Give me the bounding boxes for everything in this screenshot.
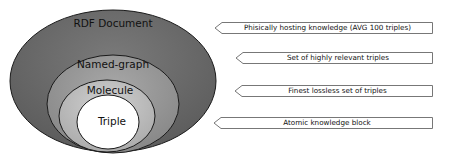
- callout-text-named-graph: Set of highly relevant triples: [243, 52, 433, 64]
- callout-molecule: Finest lossless set of triples: [234, 85, 433, 97]
- rdf-hierarchy-diagram: RDF Document Named-graph Molecule Triple…: [0, 0, 454, 156]
- layer-label-molecule: Molecule: [87, 84, 134, 96]
- callout-rdf-document: Phisically hosting knowledge (AVG 100 tr…: [214, 22, 433, 34]
- callout-named-graph: Set of highly relevant triples: [235, 52, 433, 64]
- layer-label-named-graph: Named-graph: [77, 58, 149, 70]
- callout-text-molecule: Finest lossless set of triples: [242, 85, 433, 97]
- layer-label-rdf-document: RDF Document: [73, 17, 152, 29]
- callout-triple: Atomic knowledge block: [213, 117, 433, 129]
- layer-label-triple: Triple: [98, 115, 126, 127]
- callout-text-triple: Atomic knowledge block: [221, 117, 433, 129]
- callout-text-rdf-document: Phisically hosting knowledge (AVG 100 tr…: [222, 22, 433, 34]
